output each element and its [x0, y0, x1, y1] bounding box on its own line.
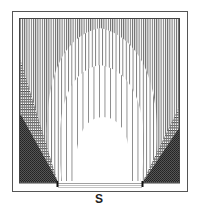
- opening-s: [57, 181, 144, 189]
- opening-label: S: [0, 192, 198, 206]
- illumination-diagram: [0, 0, 198, 192]
